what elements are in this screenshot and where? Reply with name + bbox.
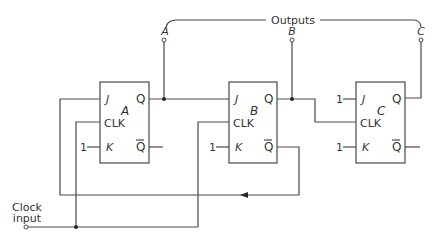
output-terminal-c: C	[405, 25, 425, 98]
ff-a-clk-pin: CLK	[104, 117, 126, 130]
output-a-terminal-icon	[162, 38, 166, 42]
wire-clock-to-clka	[76, 122, 100, 227]
output-b-label: B	[288, 25, 296, 38]
output-c-terminal-icon	[419, 38, 423, 42]
output-terminal-b: B	[288, 25, 296, 99]
ff-a-name: A	[120, 104, 129, 118]
ff-c-qbar-pin: Q	[392, 140, 401, 154]
ff-c-k-input: 1	[336, 141, 343, 154]
output-b-terminal-icon	[290, 38, 294, 42]
output-a-label: A	[160, 25, 169, 38]
ff-b-qbar-pin: Q	[264, 140, 273, 154]
wire-clock-to-clkb	[198, 122, 229, 227]
ff-c-k-pin: K	[362, 141, 370, 154]
ff-a-k-input: 1	[80, 141, 87, 154]
jk-counter-diagram: Outputs A B C J A CLK K Q Q 1 J B CLK K …	[0, 0, 443, 241]
ff-b-k-pin: K	[235, 141, 243, 154]
ff-c-j-input: 1	[336, 93, 343, 106]
clock-label-line2: input	[13, 212, 42, 225]
ff-c-name: C	[377, 104, 386, 118]
ff-a-q-pin: Q	[136, 92, 145, 106]
ff-b-clk-pin: CLK	[233, 117, 255, 130]
junction-clock-icon	[74, 225, 78, 229]
ff-a-k-pin: K	[106, 141, 114, 154]
feedback-arrow-icon	[240, 192, 248, 198]
clock-input-terminal-icon	[24, 225, 28, 229]
output-c-label: C	[417, 25, 425, 38]
ff-c-clk-pin: CLK	[360, 117, 382, 130]
junction-b-icon	[290, 97, 294, 101]
output-terminal-a: A	[160, 25, 169, 99]
ff-b-name: B	[250, 104, 258, 118]
ff-c-q-pin: Q	[392, 92, 401, 106]
ff-b-k-input: 1	[209, 141, 216, 154]
ff-a-qbar-pin: Q	[136, 140, 145, 154]
junction-a-icon	[162, 97, 166, 101]
wire-qb-to-clkc	[277, 99, 356, 122]
ff-b-q-pin: Q	[264, 92, 273, 106]
